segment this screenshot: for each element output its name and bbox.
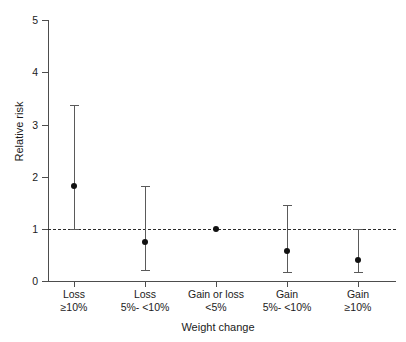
x-category-label-5: Gain ≥10% bbox=[316, 288, 400, 314]
x-category-label-5-line2: ≥10% bbox=[316, 301, 400, 314]
marker-2 bbox=[142, 239, 148, 245]
marker-4 bbox=[284, 248, 290, 254]
y-tick-5 bbox=[42, 20, 48, 21]
errorbar-line-4 bbox=[287, 205, 288, 272]
y-tick-0 bbox=[42, 281, 48, 282]
x-axis-title: Weight change bbox=[158, 322, 278, 333]
relative-risk-figure: 5 4 3 2 1 0 bbox=[0, 0, 406, 342]
errorbar-cap-lower-4 bbox=[283, 272, 292, 273]
y-tick-label-5-wrap: 5 bbox=[20, 15, 38, 25]
marker-5 bbox=[355, 257, 361, 263]
x-category-label-5-line1: Gain bbox=[316, 288, 400, 301]
errorbar-cap-upper-4 bbox=[283, 205, 292, 206]
y-tick-label-5: 5 bbox=[20, 15, 38, 25]
errorbar-cap-upper-1 bbox=[70, 105, 79, 106]
errorbar-cap-lower-1 bbox=[70, 229, 79, 230]
x-axis-line bbox=[48, 281, 396, 282]
y-tick-3 bbox=[42, 125, 48, 126]
errorbar-line-2 bbox=[145, 186, 146, 270]
x-tick-1 bbox=[74, 281, 75, 287]
y-axis-line bbox=[48, 20, 49, 282]
y-tick-4 bbox=[42, 72, 48, 73]
y-tick-2 bbox=[42, 177, 48, 178]
y-tick-label-4: 4 bbox=[20, 67, 38, 77]
errorbar-cap-lower-2 bbox=[141, 270, 150, 271]
marker-1 bbox=[71, 183, 77, 189]
errorbar-line-1 bbox=[74, 105, 75, 229]
y-tick-label-0: 0 bbox=[20, 276, 38, 286]
marker-3 bbox=[213, 226, 219, 232]
errorbar-cap-upper-5 bbox=[354, 229, 363, 230]
y-tick-label-1-wrap: 1 bbox=[20, 224, 38, 234]
plot-area: 5 4 3 2 1 0 bbox=[0, 0, 406, 342]
y-tick-label-1: 1 bbox=[20, 224, 38, 234]
x-tick-3 bbox=[216, 281, 217, 287]
errorbar-cap-upper-2 bbox=[141, 186, 150, 187]
errorbar-cap-lower-5 bbox=[354, 272, 363, 273]
errorbar-line-5 bbox=[358, 229, 359, 272]
reference-line-rr-1 bbox=[48, 229, 396, 230]
y-tick-label-0-wrap: 0 bbox=[20, 276, 38, 286]
x-tick-5 bbox=[358, 281, 359, 287]
y-axis-title: Relative risk bbox=[14, 87, 25, 177]
x-tick-2 bbox=[145, 281, 146, 287]
y-tick-label-4-wrap: 4 bbox=[20, 67, 38, 77]
x-tick-4 bbox=[287, 281, 288, 287]
